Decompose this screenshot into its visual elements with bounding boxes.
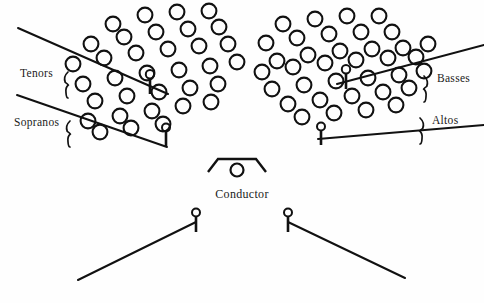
section-label-basses: Basses bbox=[437, 72, 470, 84]
conductor-label: Conductor bbox=[215, 187, 268, 201]
section-label-sopranos: Sopranos bbox=[14, 116, 59, 129]
section-label-altos: Altos bbox=[432, 114, 459, 126]
diagram-background bbox=[0, 0, 484, 303]
choir-seating-diagram: Tenors Sopranos Basses Altos Conductor bbox=[0, 0, 484, 303]
choir-diagram-stage: Tenors Sopranos Basses Altos Conductor bbox=[0, 0, 484, 303]
section-label-tenors: Tenors bbox=[20, 67, 53, 79]
